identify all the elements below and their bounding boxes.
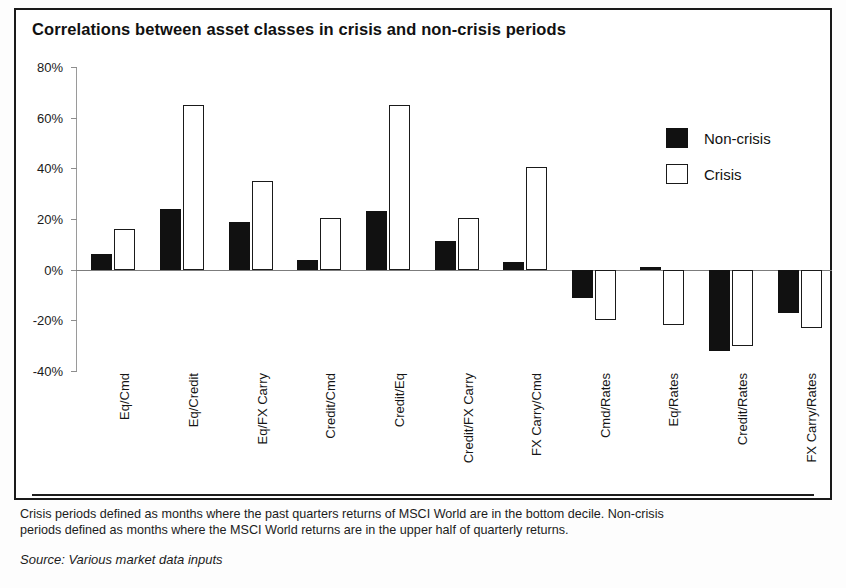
bar-group [366, 67, 410, 371]
x-axis-baseline [32, 494, 814, 496]
x-axis-labels: Eq/CmdEq/CreditEq/FX CarryCredit/CmdCred… [76, 373, 832, 501]
x-axis-label: FX Carry/Cmd [530, 373, 543, 456]
footnote-line-2: periods defined as months where the MSCI… [20, 522, 832, 538]
bar-group [297, 67, 341, 371]
y-tick-label-0: 80% [37, 60, 63, 75]
bar-group [709, 67, 753, 371]
bar-crisis [732, 270, 753, 346]
bar-group [503, 67, 547, 371]
x-axis-label: FX Carry/Rates [805, 373, 818, 463]
bar-crisis [458, 218, 479, 270]
bar-non-crisis [572, 270, 593, 298]
bar-non-crisis [709, 270, 730, 351]
bar-non-crisis [160, 209, 181, 270]
bar-crisis [389, 105, 410, 270]
bar-crisis [183, 105, 204, 270]
x-axis-label: Cmd/Rates [599, 373, 612, 438]
y-tick-label-2: 40% [37, 161, 63, 176]
bar-non-crisis [640, 267, 661, 270]
bar-non-crisis [91, 254, 112, 269]
bar-crisis [801, 270, 822, 328]
bar-group [778, 67, 822, 371]
y-tick-label-6: -40% [33, 364, 63, 379]
bar-non-crisis [778, 270, 799, 313]
legend-label-crisis: Crisis [704, 166, 742, 183]
bar-group [435, 67, 479, 371]
y-tick-label-3: 20% [37, 212, 63, 227]
y-tick-6: -40% [71, 371, 77, 372]
bars-layer [77, 67, 832, 371]
plot-area: 80%60%40%20%0%-20%-40% [76, 67, 832, 371]
bar-group [160, 67, 204, 371]
legend-swatch-non-crisis-icon [666, 128, 688, 148]
footnotes: Crisis periods defined as months where t… [20, 506, 832, 567]
source-line: Source: Various market data inputs [20, 552, 832, 567]
legend-label-non-crisis: Non-crisis [704, 130, 771, 147]
bar-crisis [595, 270, 616, 321]
bar-non-crisis [229, 222, 250, 270]
bar-group [229, 67, 273, 371]
bar-non-crisis [366, 211, 387, 269]
x-axis-label: Eq/Credit [187, 373, 200, 427]
x-axis-label: Credit/Rates [736, 373, 749, 445]
bar-group [640, 67, 684, 371]
bar-crisis [252, 181, 273, 270]
exhibit-page: Correlations between asset classes in cr… [0, 0, 846, 588]
x-axis-label: Eq/FX Carry [256, 373, 269, 445]
x-axis-label: Credit/FX Carry [462, 373, 475, 463]
chart-legend: Non-crisis Crisis [666, 128, 771, 200]
bar-group [572, 67, 616, 371]
x-axis-label: Eq/Rates [667, 373, 680, 426]
bar-crisis [320, 218, 341, 270]
chart-title: Correlations between asset classes in cr… [32, 20, 566, 39]
x-axis-label: Credit/Cmd [324, 373, 337, 439]
legend-item-non-crisis: Non-crisis [666, 128, 771, 148]
x-axis-label: Eq/Cmd [118, 373, 131, 420]
bar-crisis [526, 167, 547, 270]
bar-non-crisis [435, 241, 456, 270]
bar-crisis [114, 229, 135, 270]
y-tick-label-5: -20% [33, 313, 63, 328]
bar-non-crisis [297, 260, 318, 270]
footnote-line-1: Crisis periods defined as months where t… [20, 506, 832, 522]
legend-swatch-crisis-icon [666, 164, 688, 184]
bar-group [91, 67, 135, 371]
y-tick-label-1: 60% [37, 110, 63, 125]
bar-crisis [663, 270, 684, 326]
x-axis-label: Credit/Eq [393, 373, 406, 427]
chart-frame: Correlations between asset classes in cr… [14, 8, 832, 500]
bar-non-crisis [503, 262, 524, 270]
y-tick-label-4: 0% [44, 262, 63, 277]
legend-item-crisis: Crisis [666, 164, 771, 184]
